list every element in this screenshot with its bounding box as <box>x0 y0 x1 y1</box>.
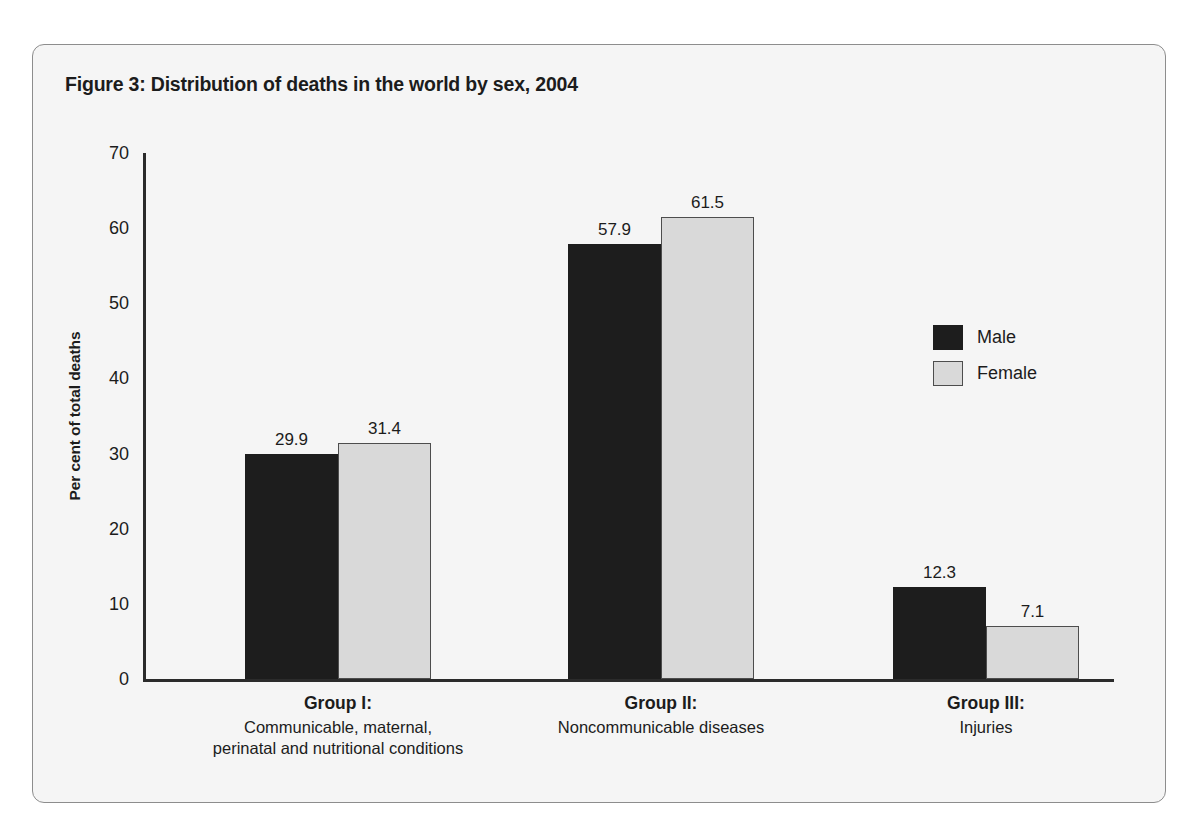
plot-area: Per cent of total deaths 010203040506070… <box>143 153 1114 679</box>
bar-female-group-1: 31.4 <box>338 443 431 679</box>
y-tick-label: 70 <box>109 143 129 164</box>
y-tick-label: 50 <box>109 293 129 314</box>
legend-item-female: Female <box>933 355 1037 391</box>
bar-value-label: 61.5 <box>691 193 724 213</box>
category-label-group-1: Group I:Communicable, maternal,perinatal… <box>213 693 463 759</box>
category-title: Group II: <box>558 693 764 714</box>
x-axis-line <box>143 679 1114 682</box>
legend-label: Female <box>977 363 1037 384</box>
y-axis-title: Per cent of total deaths <box>66 332 84 501</box>
bar-male-group-3: 12.3 <box>893 587 986 679</box>
figure-panel: Figure 3: Distribution of deaths in the … <box>32 44 1166 803</box>
category-title: Group I: <box>213 693 463 714</box>
y-tick-label: 60 <box>109 218 129 239</box>
category-title: Group III: <box>947 693 1025 714</box>
bar-female-group-2: 61.5 <box>661 217 754 679</box>
y-tick-label: 10 <box>109 593 129 614</box>
bar-value-label: 57.9 <box>598 220 631 240</box>
chart-legend: MaleFemale <box>933 319 1037 391</box>
y-tick-label: 30 <box>109 443 129 464</box>
bar-value-label: 12.3 <box>923 563 956 583</box>
category-subtitle-line: Injuries <box>947 717 1025 738</box>
legend-label: Male <box>977 327 1016 348</box>
category-label-group-2: Group II:Noncommunicable diseases <box>558 693 764 738</box>
category-subtitle-line: perinatal and nutritional conditions <box>213 738 463 759</box>
bar-male-group-2: 57.9 <box>568 244 661 679</box>
y-tick-label: 40 <box>109 368 129 389</box>
bar-value-label: 29.9 <box>275 430 308 450</box>
bar-value-label: 31.4 <box>368 419 401 439</box>
legend-swatch-male <box>933 325 963 350</box>
category-label-group-3: Group III:Injuries <box>947 693 1025 738</box>
category-subtitle-line: Communicable, maternal, <box>213 717 463 738</box>
y-tick-label: 0 <box>119 669 129 690</box>
legend-item-male: Male <box>933 319 1037 355</box>
bar-value-label: 7.1 <box>1021 602 1045 622</box>
figure-title: Figure 3: Distribution of deaths in the … <box>65 73 578 96</box>
y-axis-line <box>143 153 146 679</box>
bar-male-group-1: 29.9 <box>245 454 338 679</box>
y-tick-label: 20 <box>109 518 129 539</box>
bar-female-group-3: 7.1 <box>986 626 1079 679</box>
legend-swatch-female <box>933 361 963 386</box>
category-subtitle-line: Noncommunicable diseases <box>558 717 764 738</box>
